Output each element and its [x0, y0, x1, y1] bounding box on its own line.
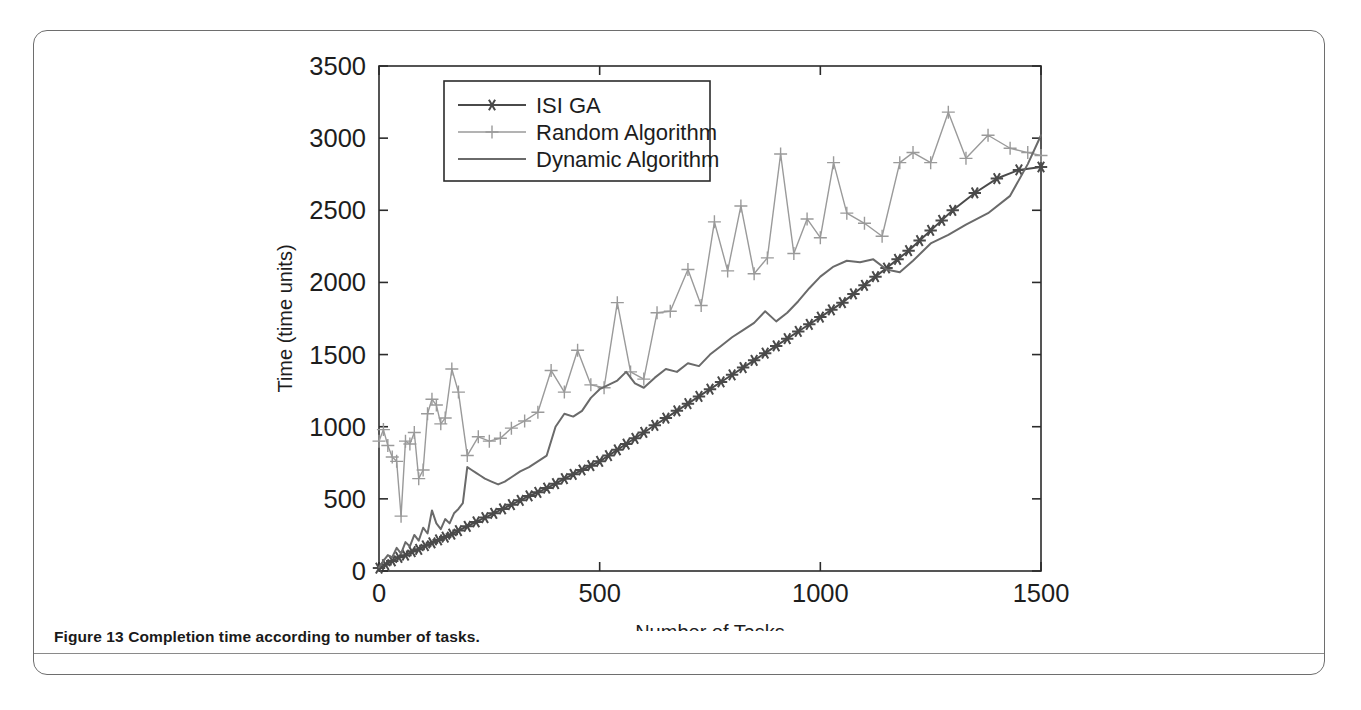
y-tick-label: 3500 [309, 52, 366, 80]
figure-card: 0500100015002000250030003500050010001500… [33, 30, 1325, 675]
completion-time-line-chart: 0500100015002000250030003500050010001500… [34, 31, 1326, 631]
y-tick-label: 1500 [309, 341, 366, 369]
x-tick-label: 1000 [792, 579, 849, 607]
series-dynamic-algorithm [379, 135, 1041, 567]
series-line [379, 167, 1041, 568]
y-axis-title: Time (time units) [274, 244, 296, 392]
x-tick-label: 1500 [1013, 579, 1070, 607]
legend-label: ISI GA [536, 93, 601, 118]
series-isi-ga [373, 162, 1047, 574]
y-tick-label: 3000 [309, 124, 366, 152]
legend-label: Random Algorithm [536, 120, 717, 145]
x-tick-label: 500 [578, 579, 621, 607]
caption-divider [34, 653, 1324, 654]
y-tick-label: 500 [323, 485, 366, 513]
chart-legend: ISI GARandom AlgorithmDynamic Algorithm [444, 81, 719, 181]
series-line [379, 135, 1041, 567]
x-tick-label: 0 [372, 579, 386, 607]
legend-label: Dynamic Algorithm [536, 147, 719, 172]
y-tick-label: 2500 [309, 196, 366, 224]
y-tick-label: 1000 [309, 413, 366, 441]
series-markers [373, 162, 1047, 574]
y-tick-label: 0 [352, 557, 366, 585]
y-tick-label: 2000 [309, 268, 366, 296]
chart-plot-area: 0500100015002000250030003500050010001500… [34, 31, 1326, 631]
figure-caption: Figure 13 Completion time according to n… [54, 628, 1304, 646]
